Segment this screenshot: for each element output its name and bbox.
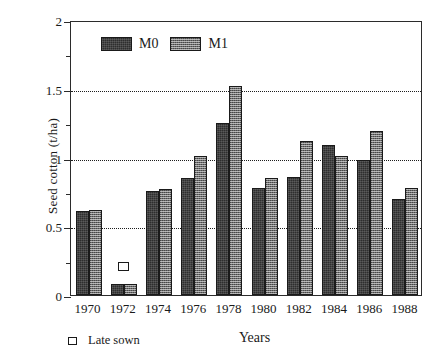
bar-M1-1972: [124, 284, 137, 295]
bar-group-1978: [216, 22, 242, 295]
bar-series-layer: [71, 22, 421, 295]
bar-M0-1982: [287, 177, 300, 295]
bar-M1-1976: [194, 156, 207, 295]
bar-M0-1984: [322, 145, 335, 295]
bar-group-1988: [392, 22, 418, 295]
x-tick-label-1978: 1978: [215, 301, 241, 317]
bar-M0-1986: [357, 160, 370, 295]
seed-cotton-bar-chart: Seed cotton (t/ha) 00.511.52 M0 M1 19701…: [0, 0, 447, 364]
legend-item-m0: M0: [101, 36, 158, 52]
bar-M0-1976: [181, 178, 194, 295]
legend-swatch-m1-icon: [170, 37, 201, 51]
bar-group-1976: [181, 22, 207, 295]
legend-label-m0: M0: [139, 36, 158, 52]
y-tick-label-2: 2: [56, 14, 63, 30]
y-tick-label-1: 1: [56, 152, 63, 168]
bar-M1-1982: [300, 141, 313, 295]
late-sown-key: Late sown: [68, 333, 140, 348]
y-tick-label-1-5: 1.5: [46, 83, 62, 99]
bar-group-1984: [322, 22, 348, 295]
late-sown-key-label: Late sown: [88, 333, 140, 348]
plot-area: 00.511.52 M0 M1: [70, 21, 422, 296]
bar-group-1974: [146, 22, 172, 295]
bar-M1-1970: [89, 210, 102, 295]
y-tick-1: [64, 160, 71, 161]
bar-M1-1986: [370, 131, 383, 295]
bar-M1-1988: [405, 188, 418, 295]
x-tick-label-1970: 1970: [75, 301, 101, 317]
bar-M1-1974: [159, 189, 172, 295]
x-tick-label-1986: 1986: [356, 301, 382, 317]
late-sown-square-icon: [68, 337, 77, 345]
y-tick-2: [64, 22, 71, 23]
y-tick-0-5: [64, 228, 71, 229]
legend-item-m1: M1: [170, 36, 227, 52]
bar-M0-1972: [111, 284, 124, 295]
late-sown-marker-icon: [118, 262, 129, 271]
legend-swatch-m0-icon: [101, 37, 132, 51]
bar-M0-1974: [146, 191, 159, 296]
bar-M0-1988: [392, 199, 405, 295]
bar-group-1980: [252, 22, 278, 295]
bar-M1-1980: [265, 178, 278, 295]
chart-legend: M0 M1: [101, 36, 228, 52]
x-tick-label-1976: 1976: [180, 301, 206, 317]
bar-group-1982: [287, 22, 313, 295]
x-tick-label-1982: 1982: [286, 301, 312, 317]
bar-M1-1984: [335, 156, 348, 295]
bar-group-1986: [357, 22, 383, 295]
bar-M0-1978: [216, 123, 229, 295]
bar-group-1970: [76, 22, 102, 295]
y-tick-1-5: [64, 91, 71, 92]
x-tick-label-1984: 1984: [321, 301, 347, 317]
bar-M0-1980: [252, 188, 265, 295]
bar-M0-1970: [76, 211, 89, 295]
x-tick-label-1974: 1974: [145, 301, 171, 317]
legend-label-m1: M1: [208, 36, 227, 52]
x-tick-label-1972: 1972: [110, 301, 136, 317]
y-tick-0: [64, 297, 71, 298]
y-tick-label-0: 0: [56, 289, 63, 305]
y-tick-label-0-5: 0.5: [46, 220, 62, 236]
x-tick-label-1988: 1988: [391, 301, 417, 317]
bar-group-1972: [111, 22, 137, 295]
x-tick-label-1980: 1980: [251, 301, 277, 317]
bar-M1-1978: [229, 86, 242, 295]
